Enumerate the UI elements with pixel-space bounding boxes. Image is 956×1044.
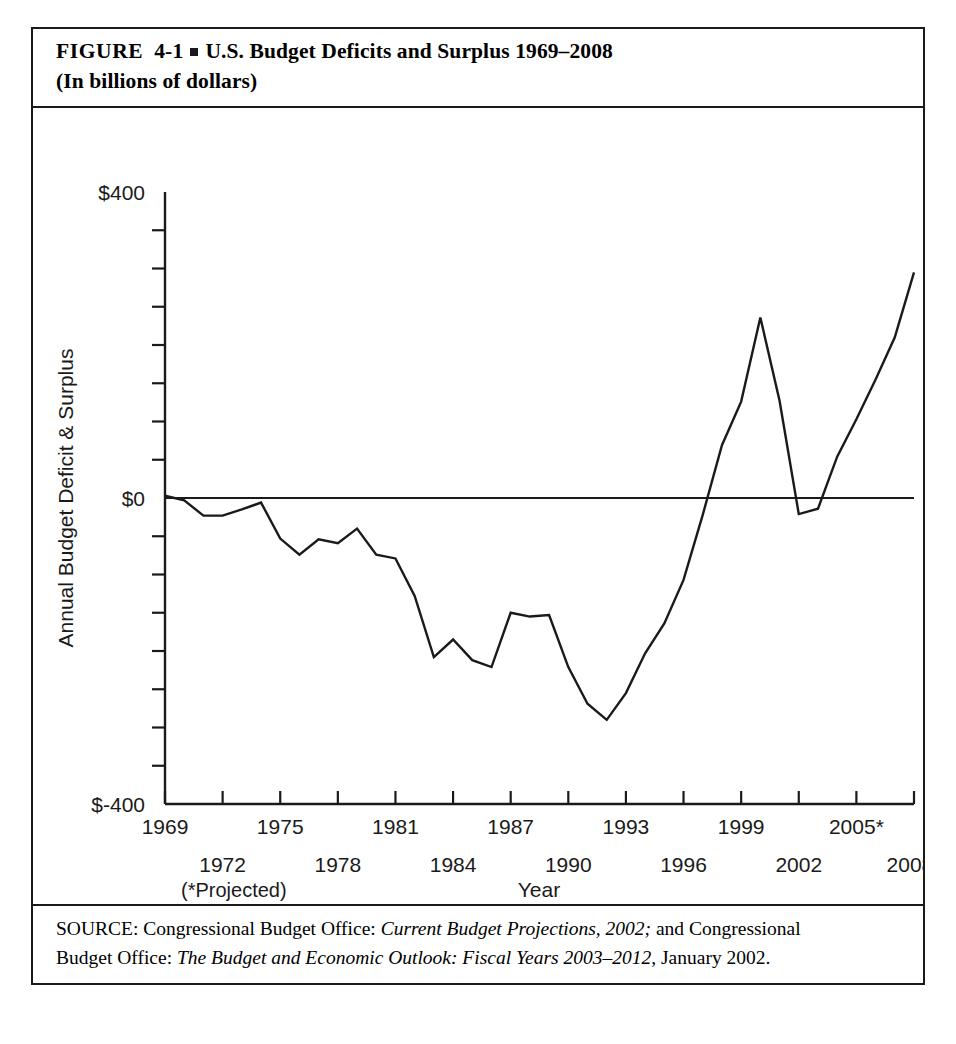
source-note-band: SOURCE: Congressional Budget Office: Cur… (33, 904, 923, 983)
figure-title-band: FIGURE 4-1U.S. Budget Deficits and Surpl… (33, 29, 923, 108)
y-axis-title: Annual Budget Deficit & Surplus (54, 349, 77, 648)
figure-title-line-1: FIGURE 4-1U.S. Budget Deficits and Surpl… (56, 39, 613, 64)
x-axis-tick-label: 1990 (545, 853, 592, 876)
source-prefix-1: SOURCE: Congressional Budget Office: (56, 918, 381, 939)
source-suffix-2: , January 2002. (651, 947, 770, 968)
x-axis-tick-label: 1972 (199, 853, 246, 876)
figure-label: FIGURE (56, 39, 143, 63)
source-prefix-2: Budget Office: (56, 947, 177, 968)
x-axis-tick-label: 2002 (775, 853, 822, 876)
figure-number: 4-1 (154, 39, 183, 63)
x-axis-tick-label: 1987 (487, 815, 534, 838)
source-title-2: The Budget and Economic Outlook: Fiscal … (177, 947, 651, 968)
figure-container: FIGURE 4-1U.S. Budget Deficits and Surpl… (31, 27, 925, 985)
y-axis: $400$0$-400 Annual Budget Deficit & Surp… (54, 181, 165, 816)
source-note-line-1: SOURCE: Congressional Budget Office: Cur… (56, 918, 801, 940)
y-axis-tick-label: $-400 (91, 793, 145, 816)
figure-subtitle: (In billions of dollars) (56, 69, 257, 94)
x-axis-tick-label: 2005* (829, 815, 884, 838)
y-axis-ticks (152, 192, 165, 804)
x-axis-tick-label: 1969 (142, 815, 189, 838)
x-axis-tick-label: 1993 (603, 815, 650, 838)
x-axis-tick-label: 2008* (887, 853, 923, 876)
square-bullet-icon (190, 48, 198, 56)
projected-footnote: (*Projected) (181, 879, 287, 901)
source-note-line-2: Budget Office: The Budget and Economic O… (56, 947, 770, 969)
x-axis-tick-labels-lower: 1972197819841990199620022008* (199, 853, 923, 876)
x-axis-tick-label: 1975 (257, 815, 304, 838)
figure-title-text: U.S. Budget Deficits and Surplus 1969–20… (205, 39, 612, 63)
y-axis-tick-labels: $400$0$-400 (91, 181, 145, 816)
x-axis-tick-label: 1981 (372, 815, 419, 838)
source-suffix-1: and Congressional (651, 918, 800, 939)
budget-deficit-line-chart: $400$0$-400 Annual Budget Deficit & Surp… (33, 108, 923, 908)
chart-plot-region: $400$0$-400 Annual Budget Deficit & Surp… (33, 108, 923, 908)
x-axis-tick-label: 1996 (660, 853, 707, 876)
x-axis-tick-label: 1999 (718, 815, 765, 838)
x-axis-tick-labels-upper: 1969197519811987199319992005* (142, 815, 884, 838)
x-axis: 1969197519811987199319992005* 1972197819… (142, 791, 923, 876)
x-axis-tick-label: 1978 (314, 853, 361, 876)
y-axis-tick-label: $400 (98, 181, 145, 204)
x-axis-ticks (165, 791, 914, 804)
x-axis-tick-label: 1984 (430, 853, 477, 876)
budget-balance-series-line (165, 272, 914, 720)
x-axis-title: Year (518, 878, 560, 901)
y-axis-tick-label: $0 (122, 487, 145, 510)
source-title-1: Current Budget Projections, 2002; (381, 918, 651, 939)
